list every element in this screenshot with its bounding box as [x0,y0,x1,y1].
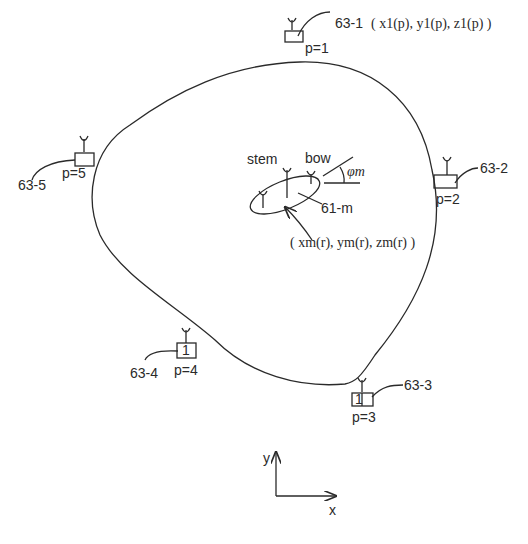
antenna-63-1-p-label: p=1 [305,40,329,56]
antenna-63-3: 1 63-3 p=3 [352,377,432,425]
antenna-63-4-box-text: 1 [182,342,190,358]
coordinate-axes: y x [263,450,336,518]
vessel-61-m: 61-m stem bow φm ( xm(r), ym(r), zm(r) ) [245,150,415,251]
y-axis-label: y [263,450,270,466]
stem-label: stem [247,151,277,167]
x-axis-label: x [329,502,336,518]
heading-angle-label: φm [347,164,365,179]
antenna-63-5-p-label: p=5 [62,165,86,181]
antenna-63-4: 1 63-4 p=4 [130,328,198,381]
antenna-63-1-label: 63-1 [335,15,363,31]
antenna-63-2: 63-2 p=2 [434,157,508,207]
antenna-63-2-p-label: p=2 [436,191,460,207]
antenna-63-1: p=1 63-1 ( x1(p), y1(p), z1(p) ) [285,12,492,56]
antenna-63-1-coords: ( x1(p), y1(p), z1(p) ) [371,16,492,32]
antenna-63-2-label: 63-2 [480,160,508,176]
antenna-63-3-p-label: p=3 [352,409,376,425]
antenna-63-4-label: 63-4 [130,365,158,381]
vessel-label: 61-m [321,200,353,216]
shoreline-boundary [92,62,436,385]
bow-label: bow [305,150,332,166]
diagram-canvas: p=1 63-1 ( x1(p), y1(p), z1(p) ) 63-2 p=… [0,0,528,544]
vessel-position-label: ( xm(r), ym(r), zm(r) ) [290,235,416,251]
antenna-63-3-box-text: 1 [355,391,363,407]
antenna-63-5: 63-5 p=5 [18,136,94,193]
antenna-63-3-label: 63-3 [404,377,432,393]
antenna-63-5-label: 63-5 [18,177,46,193]
antenna-63-4-p-label: p=4 [174,362,198,378]
